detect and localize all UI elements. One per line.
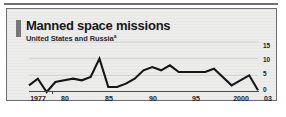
y-axis-tick-0: 0	[263, 86, 267, 93]
y-axis-tick-5: 5	[263, 70, 267, 77]
plot-area	[29, 42, 258, 92]
top-rule-divider	[4, 3, 278, 5]
x-axis-tick-1985: 85	[105, 95, 113, 103]
x-axis-labels: 1977 80 85 90 95 2000 03	[15, 95, 283, 107]
footnote-marker: a	[114, 33, 117, 39]
x-axis-tick-2000: 2000	[233, 95, 249, 103]
chart-panel: Manned space missions United States and …	[6, 8, 277, 101]
line-chart-svg	[29, 42, 258, 92]
x-axis-tick-1995: 95	[192, 95, 200, 103]
y-axis-tick-10: 10	[263, 56, 270, 63]
chart-figure: Manned space missions United States and …	[0, 0, 286, 117]
x-axis-tick-1977: 1977	[30, 95, 46, 103]
x-axis-tick-mark	[52, 91, 53, 94]
x-axis-tick-2003: 03	[264, 95, 272, 103]
x-axis-line	[29, 91, 259, 92]
y-axis-tick-15: 15	[263, 42, 270, 49]
x-axis-tick-1980: 80	[61, 95, 69, 103]
title-accent-block	[16, 20, 21, 37]
x-axis-tick-1990: 90	[149, 95, 157, 103]
chart-title: Manned space missions	[26, 19, 170, 33]
